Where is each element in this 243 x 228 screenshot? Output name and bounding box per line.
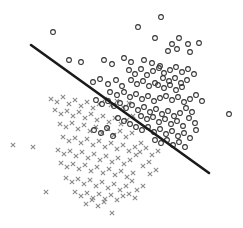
scatter-plot-figure xyxy=(0,0,243,228)
plot-canvas xyxy=(0,0,243,228)
